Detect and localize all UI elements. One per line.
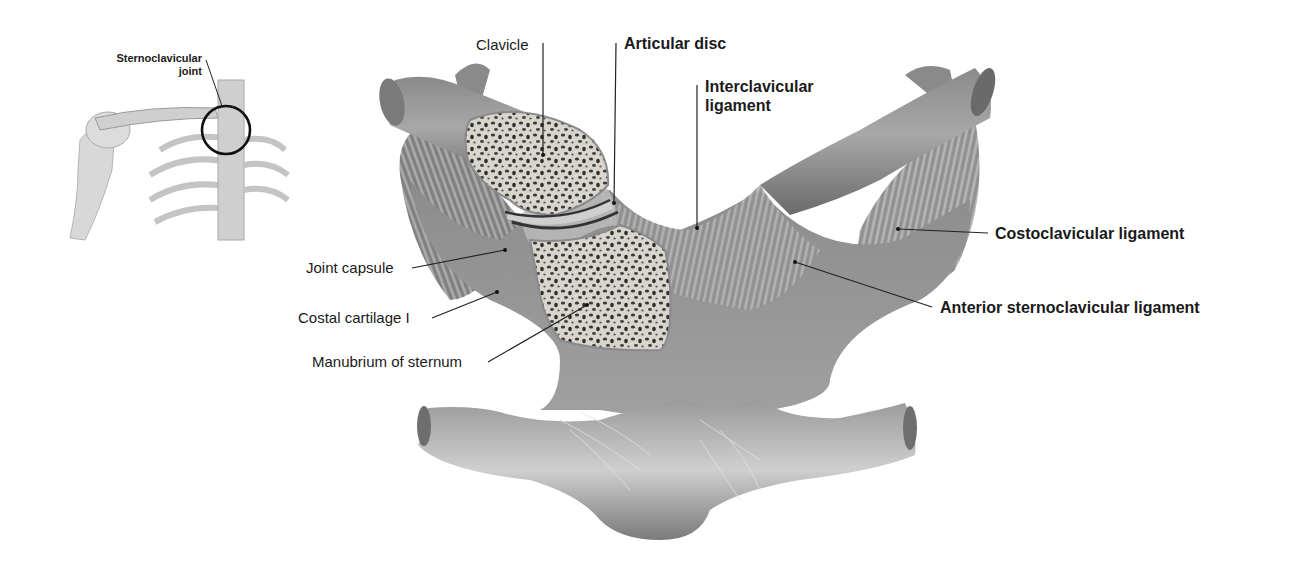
- inset-label-line1: Sternoclavicular: [98, 52, 202, 65]
- label-costal-cartilage: Costal cartilage I: [298, 308, 410, 327]
- label-clavicle: Clavicle: [476, 35, 529, 54]
- leader-articular-disc: [614, 43, 616, 203]
- label-joint-capsule: Joint capsule: [306, 258, 394, 277]
- label-interclavicular-line2: ligament: [705, 96, 814, 115]
- label-articular-disc: Articular disc: [624, 34, 726, 53]
- label-anterior-sternoclavicular-ligament: Anterior sternoclavicular ligament: [940, 298, 1200, 317]
- sternoclavicular-joint-illustration: [375, 64, 1000, 540]
- label-interclavicular-ligament: Interclavicular ligament: [705, 77, 814, 115]
- label-interclavicular-line1: Interclavicular: [705, 77, 814, 96]
- inset-thumbnail: [70, 60, 288, 240]
- inset-label-line2: joint: [98, 65, 202, 78]
- anatomy-illustration: [0, 0, 1291, 566]
- label-costoclavicular-ligament: Costoclavicular ligament: [995, 224, 1184, 243]
- label-manubrium-of-sternum: Manubrium of sternum: [312, 352, 462, 371]
- inset-label-sternoclavicular-joint: Sternoclavicular joint: [98, 52, 202, 78]
